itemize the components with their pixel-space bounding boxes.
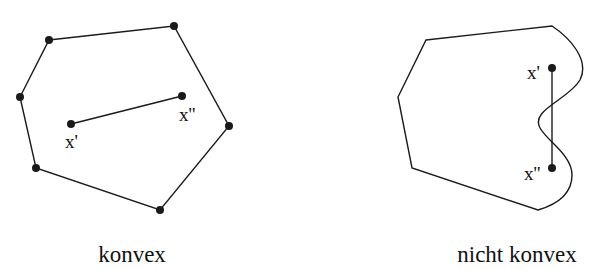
point-x-prime [548, 64, 556, 72]
connecting-segment [71, 96, 182, 124]
point-x-double-prime [548, 164, 556, 172]
point-x-double-prime [178, 92, 186, 100]
label-x-double-prime: x'' [524, 163, 540, 184]
vertex [32, 164, 40, 172]
vertex [156, 206, 164, 214]
vertex [225, 122, 233, 130]
convex-polygon [20, 26, 229, 210]
vertex [16, 93, 24, 101]
label-x-prime: x' [65, 131, 78, 152]
point-x-prime [67, 120, 75, 128]
convexity-diagram: x' x'' konvex x' x'' nicht konvex [0, 0, 605, 270]
vertex [45, 36, 53, 44]
convex-figure: x' x'' konvex [16, 22, 233, 267]
label-x-prime: x' [527, 62, 540, 83]
caption-convex: konvex [98, 242, 166, 267]
caption-nonconvex: nicht konvex [457, 242, 577, 267]
vertex [170, 22, 178, 30]
label-x-double-prime: x'' [179, 104, 195, 125]
nonconvex-shape [398, 26, 583, 210]
nonconvex-figure: x' x'' nicht konvex [398, 26, 583, 267]
